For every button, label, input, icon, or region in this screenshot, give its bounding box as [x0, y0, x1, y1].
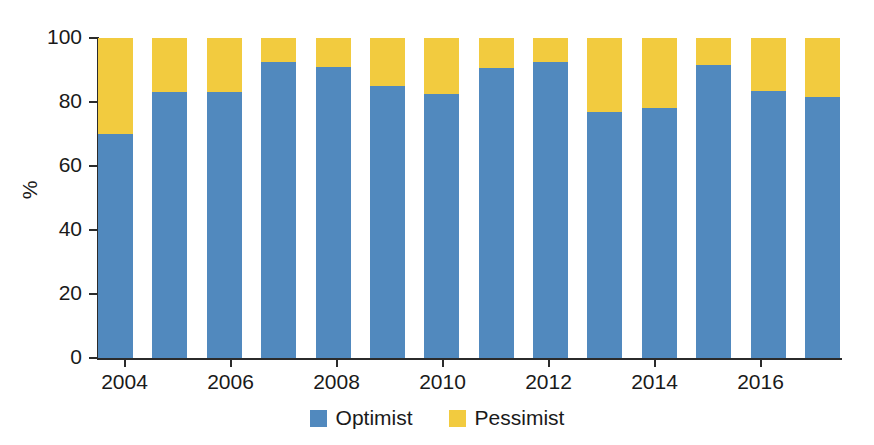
bar-column[interactable] — [696, 38, 731, 358]
bar-column[interactable] — [152, 38, 187, 358]
x-axis-line — [97, 358, 842, 360]
bar-segment-pessimist[interactable] — [587, 38, 622, 112]
bar-segment-pessimist[interactable] — [207, 38, 242, 92]
x-axis-tick-label: 2004 — [101, 370, 148, 394]
x-axis-tick-label: 2006 — [207, 370, 254, 394]
bar-segment-pessimist[interactable] — [805, 38, 840, 97]
bar-column[interactable] — [370, 38, 405, 358]
x-axis-tick-mark — [230, 358, 232, 367]
bar-segment-pessimist[interactable] — [696, 38, 731, 65]
x-axis-tick-mark — [760, 358, 762, 367]
bar-segment-pessimist[interactable] — [424, 38, 459, 94]
bar-column[interactable] — [424, 38, 459, 358]
bar-column[interactable] — [642, 38, 677, 358]
bar-segment-optimist[interactable] — [479, 68, 514, 358]
x-axis-tick-mark — [442, 358, 444, 367]
bar-column[interactable] — [316, 38, 351, 358]
bar-segment-optimist[interactable] — [424, 94, 459, 358]
x-axis-tick-label: 2016 — [737, 370, 784, 394]
x-axis-tick-mark — [548, 358, 550, 367]
bar-segment-optimist[interactable] — [533, 62, 568, 358]
bar-segment-optimist[interactable] — [261, 62, 296, 358]
plot-area — [98, 38, 840, 358]
bar-column[interactable] — [98, 38, 133, 358]
bar-segment-pessimist[interactable] — [98, 38, 133, 134]
bar-segment-pessimist[interactable] — [370, 38, 405, 86]
bar-segment-optimist[interactable] — [805, 97, 840, 358]
x-axis-tick-mark — [336, 358, 338, 367]
x-axis-tick-label: 2014 — [631, 370, 678, 394]
bar-segment-optimist[interactable] — [152, 92, 187, 358]
bar-column[interactable] — [261, 38, 296, 358]
bar-segment-optimist[interactable] — [207, 92, 242, 358]
x-axis-tick-label: 2012 — [525, 370, 572, 394]
bar-segment-optimist[interactable] — [98, 134, 133, 358]
x-axis-tick-label: 2008 — [313, 370, 360, 394]
legend-label: Optimist — [336, 406, 413, 430]
legend-item[interactable]: Optimist — [310, 406, 413, 430]
legend-label: Pessimist — [475, 406, 565, 430]
bar-column[interactable] — [479, 38, 514, 358]
legend-swatch-icon — [310, 410, 327, 427]
bar-column[interactable] — [751, 38, 786, 358]
bar-segment-optimist[interactable] — [751, 91, 786, 358]
y-axis-tick-label: 40 — [0, 218, 82, 239]
bar-column[interactable] — [805, 38, 840, 358]
bars-layer — [98, 38, 840, 358]
y-axis-tick-label: 100 — [0, 26, 82, 47]
bar-segment-optimist[interactable] — [316, 67, 351, 358]
bar-segment-optimist[interactable] — [370, 86, 405, 358]
y-axis-tick-label: 0 — [0, 346, 82, 367]
y-axis-tick-label: 60 — [0, 154, 82, 175]
bar-segment-pessimist[interactable] — [642, 38, 677, 108]
x-axis-tick-mark — [654, 358, 656, 367]
bar-segment-pessimist[interactable] — [261, 38, 296, 62]
bar-column[interactable] — [207, 38, 242, 358]
bar-segment-optimist[interactable] — [696, 65, 731, 358]
legend-item[interactable]: Pessimist — [449, 406, 565, 430]
x-axis-tick-mark — [124, 358, 126, 367]
y-axis-tick-label: 80 — [0, 90, 82, 111]
stacked-bar-chart: % 020406080100 2004200620082010201220142… — [0, 0, 874, 445]
bar-segment-optimist[interactable] — [642, 108, 677, 358]
bar-segment-pessimist[interactable] — [479, 38, 514, 68]
bar-segment-pessimist[interactable] — [751, 38, 786, 91]
y-axis-tick-label: 20 — [0, 282, 82, 303]
bar-segment-pessimist[interactable] — [152, 38, 187, 92]
bar-segment-pessimist[interactable] — [316, 38, 351, 67]
bar-column[interactable] — [587, 38, 622, 358]
x-axis-tick-label: 2010 — [419, 370, 466, 394]
bar-segment-optimist[interactable] — [587, 112, 622, 358]
y-axis-title: % — [18, 181, 42, 200]
chart-legend: OptimistPessimist — [0, 406, 874, 430]
legend-swatch-icon — [449, 410, 466, 427]
bar-segment-pessimist[interactable] — [533, 38, 568, 62]
bar-column[interactable] — [533, 38, 568, 358]
